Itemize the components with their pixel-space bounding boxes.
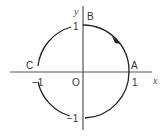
tick-y-pos: 1 bbox=[73, 21, 79, 32]
unit-circle-diagram: y x B A C O 1 1 −1 −1 bbox=[0, 0, 165, 139]
x-axis-label: x bbox=[152, 75, 158, 86]
tick-x-neg: −1 bbox=[32, 77, 44, 88]
origin-label: O bbox=[72, 77, 80, 88]
y-axis-label: y bbox=[73, 6, 79, 17]
tick-x-pos: 1 bbox=[132, 77, 138, 88]
point-b-label: B bbox=[87, 11, 94, 22]
point-c-label: C bbox=[26, 60, 33, 71]
point-a-label: A bbox=[131, 60, 138, 71]
tick-y-neg: −1 bbox=[67, 113, 79, 124]
circle-arc-top-left bbox=[38, 27, 71, 66]
